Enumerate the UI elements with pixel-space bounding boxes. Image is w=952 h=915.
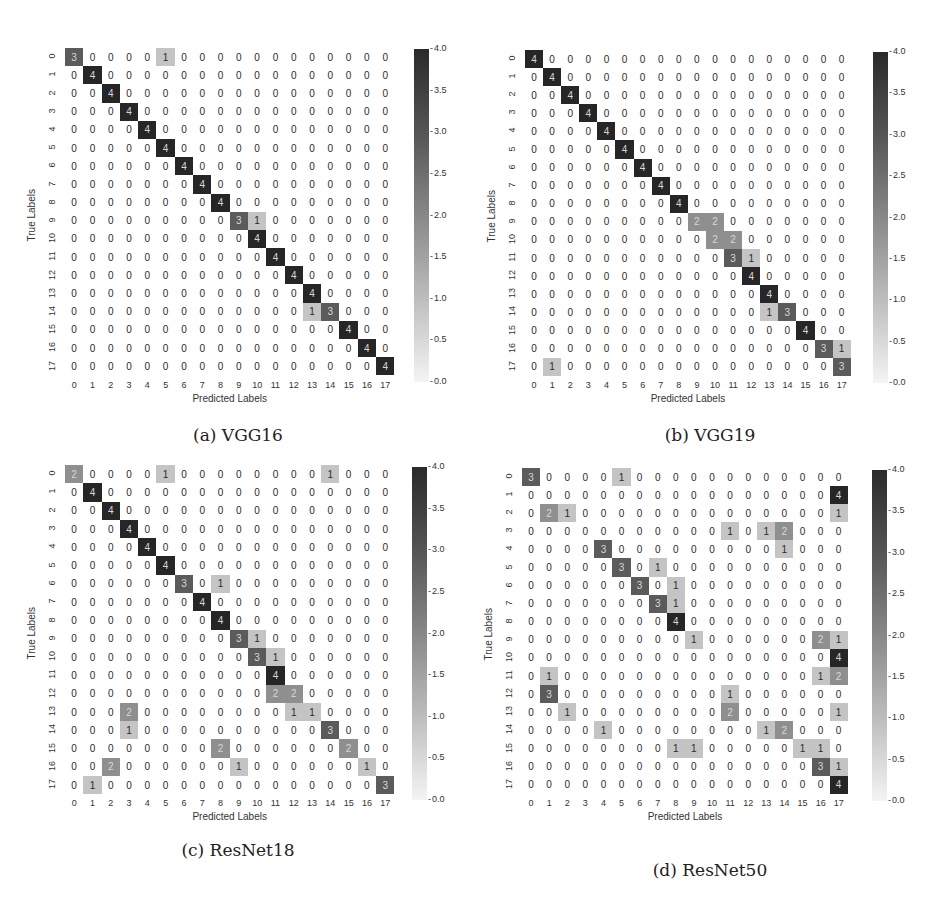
heatmap-cell: 0: [685, 558, 703, 576]
heatmap-cell: 0: [742, 321, 760, 339]
heatmap-cell: 0: [65, 66, 83, 84]
heatmap-cell: 0: [685, 522, 703, 540]
heatmap-cell: 0: [721, 758, 739, 776]
heatmap-cell: 0: [358, 121, 376, 139]
heatmap-cell: 0: [721, 631, 739, 649]
heatmap-cell: 0: [156, 666, 174, 684]
heatmap-cell: 0: [760, 321, 778, 339]
heatmap-cell: 0: [156, 175, 174, 193]
heatmap-cell: 4: [543, 68, 561, 86]
heatmap-cell: 0: [303, 321, 321, 339]
y-tick-label: 5: [47, 138, 57, 156]
heatmap-cell: 0: [285, 611, 303, 629]
y-tick-label: 13: [507, 284, 517, 302]
heatmap-cell: 0: [703, 758, 721, 776]
heatmap-cell: 0: [156, 703, 174, 721]
heatmap-cell: 0: [175, 666, 193, 684]
y-tick-label: 17: [47, 357, 57, 375]
heatmap-cell: 0: [540, 486, 558, 504]
heatmap-cell: 0: [793, 758, 811, 776]
heatmap-cell: 0: [193, 776, 211, 794]
heatmap-cell: 0: [102, 703, 120, 721]
heatmap-cell: 0: [285, 538, 303, 556]
heatmap-cell: 0: [376, 648, 394, 666]
heatmap-cell: 0: [576, 522, 594, 540]
colorbar-tick-label: 3.0: [428, 544, 445, 554]
heatmap-cell: 0: [266, 339, 284, 357]
x-tick-label: 17: [833, 380, 851, 390]
heatmap-cell: 0: [376, 339, 394, 357]
heatmap-cell: 0: [540, 631, 558, 649]
heatmap-cell: 0: [138, 66, 156, 84]
heatmap-cell: 0: [576, 721, 594, 739]
heatmap-cell: 2: [120, 703, 138, 721]
heatmap-cell: 0: [615, 68, 633, 86]
heatmap-cell: 0: [266, 84, 284, 102]
y-tick-label: 9: [47, 211, 57, 229]
heatmap-cell: 4: [561, 86, 579, 104]
heatmap-cell: 0: [652, 195, 670, 213]
heatmap-cell: 0: [703, 667, 721, 685]
heatmap-cell: 2: [102, 758, 120, 776]
heatmap-cell: 0: [576, 667, 594, 685]
heatmap-cell: 4: [102, 502, 120, 520]
heatmap-cell: 2: [775, 721, 793, 739]
heatmap-cell: 0: [634, 177, 652, 195]
heatmap-cell: 0: [706, 321, 724, 339]
heatmap-cell: 0: [285, 648, 303, 666]
heatmap-cell: 0: [703, 504, 721, 522]
heatmap-cell: 0: [321, 139, 339, 157]
heatmap-cell: 0: [102, 139, 120, 157]
heatmap-cell: 0: [833, 231, 851, 249]
heatmap-cell: 3: [175, 575, 193, 593]
heatmap-cell: 1: [760, 303, 778, 321]
heatmap-cell: 0: [597, 267, 615, 285]
heatmap-cell: 0: [358, 520, 376, 538]
heatmap-cell: 0: [757, 486, 775, 504]
y-tick-label: 10: [504, 648, 514, 666]
heatmap-cell: 0: [138, 103, 156, 121]
heatmap-cell: 0: [615, 340, 633, 358]
heatmap-cell: 0: [120, 339, 138, 357]
heatmap-cell: 0: [775, 613, 793, 631]
heatmap-cell: 0: [83, 520, 101, 538]
heatmap-cell: 2: [721, 703, 739, 721]
x-tick-label: 15: [794, 798, 812, 808]
x-tick-label: 2: [102, 798, 120, 808]
heatmap-cell: 1: [612, 468, 630, 486]
heatmap-cell: 0: [833, 122, 851, 140]
heatmap-cell: 0: [358, 194, 376, 212]
heatmap-cell: 0: [193, 48, 211, 66]
heatmap-cell: 0: [543, 249, 561, 267]
heatmap-cell: 0: [685, 577, 703, 595]
heatmap-cell: 0: [558, 649, 576, 667]
heatmap-cell: 0: [138, 230, 156, 248]
heatmap-cell: 0: [796, 285, 814, 303]
heatmap-cell: 3: [540, 685, 558, 703]
heatmap-cell: 0: [339, 48, 357, 66]
heatmap-cell: 0: [830, 522, 848, 540]
heatmap-cell: 0: [358, 303, 376, 321]
heatmap-cell: 0: [670, 86, 688, 104]
heatmap-cell: 0: [321, 630, 339, 648]
heatmap-cell: 0: [721, 486, 739, 504]
heatmap-cell: 0: [83, 139, 101, 157]
y-axis-label: True Labels: [26, 181, 37, 241]
heatmap-cell: 4: [193, 593, 211, 611]
heatmap-cell: 0: [138, 611, 156, 629]
heatmap-cell: 0: [597, 231, 615, 249]
heatmap-cell: 0: [812, 504, 830, 522]
colorbar-tick-label: 4.0: [888, 464, 905, 474]
heatmap-cell: 0: [724, 267, 742, 285]
heatmap-cell: 0: [138, 339, 156, 357]
heatmap-cell: 0: [703, 486, 721, 504]
heatmap-cell: 4: [193, 175, 211, 193]
heatmap-cell: 0: [649, 703, 667, 721]
heatmap-cell: 3: [65, 48, 83, 66]
heatmap-cell: 0: [631, 721, 649, 739]
heatmap-cell: 0: [615, 159, 633, 177]
heatmap-cell: 0: [358, 666, 376, 684]
heatmap-cell: 0: [83, 502, 101, 520]
heatmap-cell: 0: [339, 103, 357, 121]
heatmap-cell: 0: [760, 122, 778, 140]
